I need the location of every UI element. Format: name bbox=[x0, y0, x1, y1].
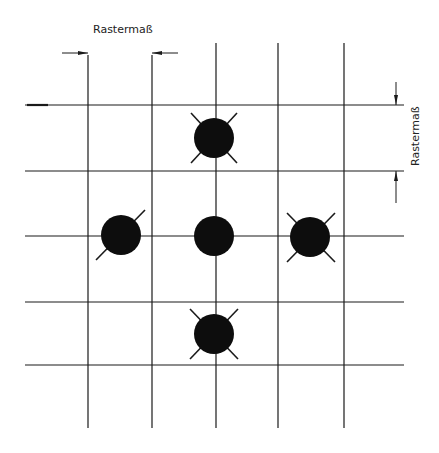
dim-arrow-right-icon bbox=[152, 51, 162, 55]
dim-arrow-top-icon bbox=[394, 95, 398, 105]
hole-top bbox=[191, 113, 237, 163]
dim-arrow-left-icon bbox=[78, 51, 88, 55]
right-dimension-label: Rastermaß bbox=[409, 106, 422, 166]
filled-circle-icon bbox=[290, 217, 330, 257]
hole-right bbox=[287, 213, 335, 262]
hole-left bbox=[96, 210, 145, 260]
top-dimension-label: Rastermaß bbox=[93, 23, 153, 36]
hole-center bbox=[194, 216, 234, 256]
filled-circle-icon bbox=[194, 118, 234, 158]
grid-diagram: Rastermaß Rastermaß bbox=[0, 0, 439, 453]
right-dimension: Rastermaß bbox=[394, 82, 422, 203]
filled-circle-icon bbox=[194, 314, 234, 354]
filled-circle-icon bbox=[101, 215, 141, 255]
dim-arrow-bottom-icon bbox=[394, 171, 398, 181]
top-dimension: Rastermaß bbox=[62, 23, 178, 55]
filled-circle-icon bbox=[194, 216, 234, 256]
hole-bottom bbox=[190, 309, 238, 359]
